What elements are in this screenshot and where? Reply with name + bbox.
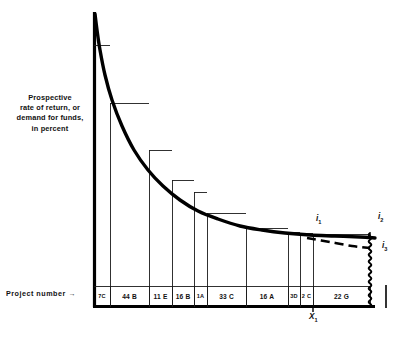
project-number-label: 3D: [288, 293, 300, 299]
plot-area: [0, 0, 394, 340]
project-number-label: 2 C: [300, 293, 313, 299]
step-bars-group: [94, 46, 371, 308]
marker-subscript: 1: [314, 317, 317, 323]
project-number-label: 7C: [94, 293, 110, 299]
demand-curve: [95, 14, 375, 238]
marker-subscript: 1: [318, 219, 321, 225]
marker-subscript: 3: [384, 246, 387, 252]
project-number-label: 11 E: [149, 293, 172, 300]
dashed-alternative-curve: [307, 238, 370, 248]
marker-i3: i3: [382, 241, 387, 252]
project-number-label: 1A: [194, 293, 207, 299]
project-number-label: 44 B: [110, 293, 149, 300]
investment-demand-chart: Prospective rate of return, or demand fo…: [0, 0, 394, 340]
project-number-label: 16 A: [246, 293, 288, 300]
marker-subscript: 2: [380, 217, 383, 223]
project-number-label: 33 C: [207, 293, 246, 300]
marker-x1: X1: [309, 312, 318, 323]
project-number-label: 22 G: [313, 293, 370, 300]
project-number-label: 16 B: [172, 293, 194, 300]
marker-i1: i1: [316, 214, 321, 225]
marker-i2: i2: [378, 212, 383, 223]
